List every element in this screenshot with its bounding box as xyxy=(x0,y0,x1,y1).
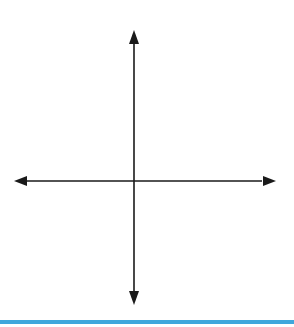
axes xyxy=(14,30,276,305)
y-axis-arrow-down-icon xyxy=(129,291,139,305)
x-axis-arrow-right-icon xyxy=(263,176,276,186)
bottom-color-bar xyxy=(0,320,294,324)
y-axis-arrow-up-icon xyxy=(129,30,139,44)
x-axis-arrow-left-icon xyxy=(14,176,27,186)
coordinate-grid-diagram xyxy=(0,0,294,327)
